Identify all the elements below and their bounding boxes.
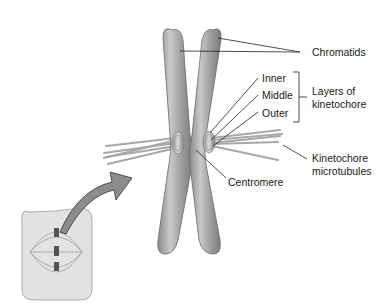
kinetochore-right [203, 131, 215, 153]
label-layers-line2: kinetochore [312, 98, 366, 111]
zoom-arrow [60, 172, 132, 234]
label-middle: Middle [262, 89, 293, 102]
label-outer: Outer [262, 107, 288, 120]
label-layers-of-kinetochore: Layers of kinetochore [312, 85, 366, 111]
kinetochore-left [172, 132, 184, 154]
label-microtubules-line2: microtubules [312, 165, 372, 178]
label-kinetochore-microtubules: Kinetochore microtubules [312, 152, 372, 178]
left-microtubules [104, 138, 176, 164]
label-chromatids: Chromatids [312, 46, 366, 59]
label-inner: Inner [262, 72, 286, 85]
right-microtubules [212, 130, 282, 160]
label-microtubules-line1: Kinetochore [312, 152, 372, 165]
mitosis-inset [22, 208, 92, 300]
label-centromere: Centromere [228, 176, 283, 189]
label-layers-line1: Layers of [312, 85, 366, 98]
